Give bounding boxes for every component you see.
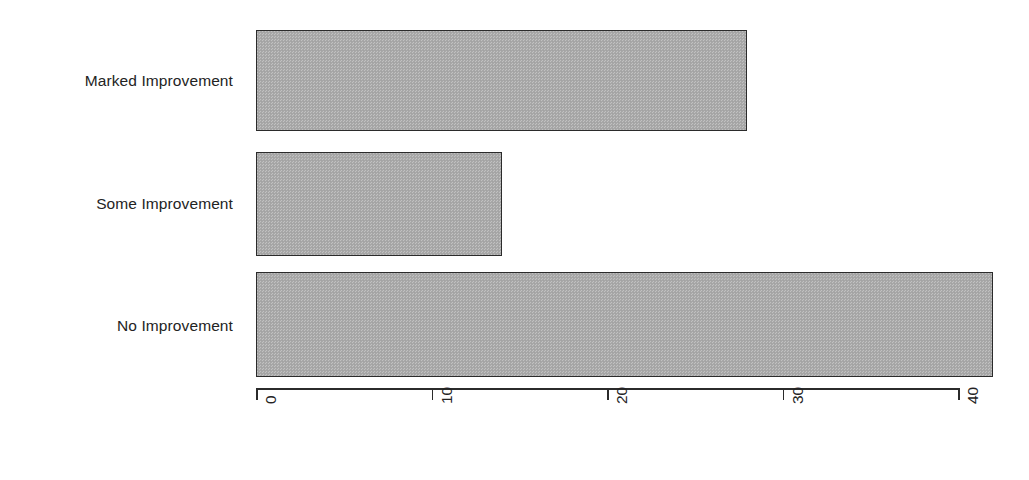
bar-marked-improvement bbox=[256, 30, 747, 131]
x-tick-mark-10 bbox=[432, 388, 434, 400]
x-tick-label-30: 30 bbox=[790, 387, 806, 404]
category-label-no-improvement: No Improvement bbox=[117, 318, 233, 334]
x-tick-label-20: 20 bbox=[614, 387, 630, 404]
x-tick-label-0: 0 bbox=[263, 395, 279, 404]
bar-some-improvement bbox=[256, 152, 502, 256]
x-tick-label-10: 10 bbox=[439, 387, 455, 404]
x-tick-mark-20 bbox=[607, 388, 609, 400]
category-label-marked-improvement: Marked Improvement bbox=[85, 73, 233, 89]
x-tick-mark-0 bbox=[256, 388, 258, 400]
x-tick-mark-40 bbox=[958, 388, 960, 400]
category-label-some-improvement: Some Improvement bbox=[96, 196, 233, 212]
x-tick-mark-30 bbox=[783, 388, 785, 400]
bar-no-improvement bbox=[256, 272, 993, 377]
bar-chart: Marked Improvement Some Improvement No I… bbox=[0, 0, 1029, 480]
x-tick-label-40: 40 bbox=[965, 387, 981, 404]
